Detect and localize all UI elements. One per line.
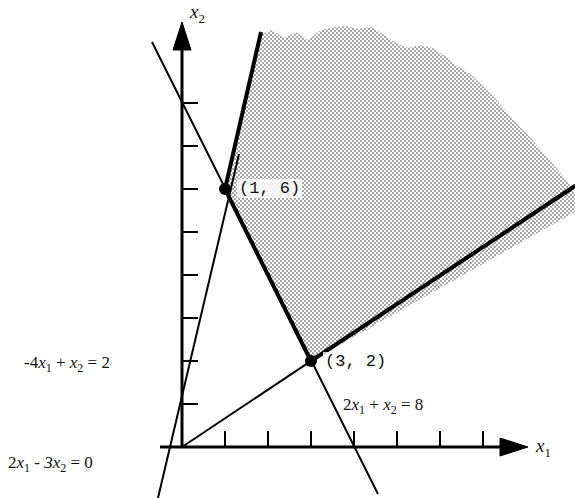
- vertex-dot-1-6: [219, 183, 231, 195]
- feasible-region-figure: [0, 0, 575, 498]
- constraint-label-2x1-plus-x2-eq-8: 2x1 + x2 = 8: [343, 396, 423, 416]
- x-axis-ticks: [225, 431, 483, 447]
- x-axis-label: x1: [536, 436, 551, 459]
- constraint-label-2x1-minus-3x2-eq-0: 2x1 - 3x2 = 0: [8, 454, 93, 474]
- constraint-label-minus4x1-plus-x2-eq-2: -4x1 + x2 = 2: [24, 354, 110, 374]
- y-axis-label: x2: [190, 2, 205, 25]
- vertex-label-1-6: (1, 6): [237, 179, 302, 198]
- vertex-label-3-2: (3, 2): [323, 352, 388, 371]
- vertex-dot-3-2: [305, 355, 317, 367]
- x-axis-arrowhead: [500, 438, 528, 456]
- y-axis-arrowhead: [173, 22, 191, 50]
